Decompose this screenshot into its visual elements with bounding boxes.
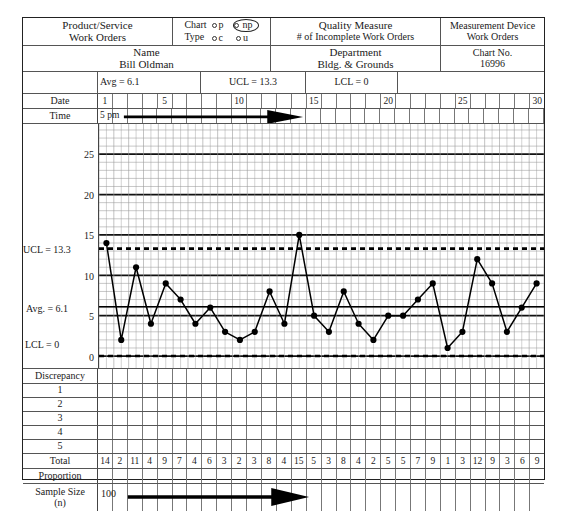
discrepancy-cell[interactable] — [426, 440, 441, 453]
discrepancy-cell[interactable] — [381, 426, 396, 439]
discrepancy-cell[interactable] — [515, 384, 530, 397]
proportion-cells[interactable] — [98, 469, 544, 483]
discrepancy-cell[interactable] — [351, 440, 366, 453]
date-tick-cell[interactable]: 10 — [232, 94, 247, 108]
date-tick-cell[interactable] — [500, 94, 515, 108]
proportion-cell[interactable] — [396, 469, 411, 483]
discrepancy-cell[interactable] — [530, 384, 544, 397]
discrepancy-cell[interactable] — [158, 412, 173, 425]
discrepancy-cell[interactable] — [500, 384, 515, 397]
discrepancy-cell[interactable] — [515, 426, 530, 439]
discrepancy-cell[interactable] — [262, 384, 277, 397]
discrepancy-cell[interactable] — [113, 398, 128, 411]
discrepancy-cell[interactable] — [247, 440, 262, 453]
discrepancy-cell[interactable] — [202, 384, 217, 397]
discrepancy-cell[interactable] — [173, 398, 188, 411]
discrepancy-cell[interactable] — [98, 440, 113, 453]
discrepancy-cell[interactable] — [337, 384, 352, 397]
discrepancy-cell[interactable] — [426, 384, 441, 397]
proportion-cell[interactable] — [262, 469, 277, 483]
proportion-cell[interactable] — [456, 469, 471, 483]
date-tick-cell[interactable]: 15 — [307, 94, 322, 108]
chart-type-cell[interactable]: Chart Type p np c u — [173, 18, 271, 45]
discrepancy-cell[interactable] — [486, 398, 501, 411]
discrepancy-cell[interactable] — [471, 398, 486, 411]
discrepancy-cell[interactable] — [128, 384, 143, 397]
discrepancy-cell[interactable] — [411, 412, 426, 425]
department-cell[interactable]: Department Bldg. & Grounds — [271, 46, 441, 71]
discrepancy-cell[interactable] — [98, 398, 113, 411]
discrepancy-cell[interactable] — [187, 412, 202, 425]
discrepancy-cell[interactable] — [471, 384, 486, 397]
proportion-cell[interactable] — [515, 469, 530, 483]
discrepancy-cell[interactable] — [396, 384, 411, 397]
date-tick-cell[interactable] — [113, 94, 128, 108]
discrepancy-cell[interactable] — [292, 440, 307, 453]
discrepancy-cell[interactable] — [486, 412, 501, 425]
discrepancy-cell[interactable] — [217, 412, 232, 425]
discrepancy-cell[interactable] — [143, 412, 158, 425]
ucl-stat[interactable]: UCL = 13.3 — [201, 72, 306, 93]
discrepancy-cell[interactable] — [187, 426, 202, 439]
proportion-cell[interactable] — [426, 469, 441, 483]
discrepancy-cell[interactable] — [202, 440, 217, 453]
discrepancy-cell[interactable] — [158, 426, 173, 439]
discrepancy-cell[interactable] — [351, 398, 366, 411]
discrepancy-cell[interactable] — [262, 426, 277, 439]
date-tick-cell[interactable] — [292, 94, 307, 108]
proportion-cell[interactable] — [411, 469, 426, 483]
discrepancy-cell[interactable] — [471, 412, 486, 425]
date-tick-cell[interactable] — [277, 94, 292, 108]
date-tick-cell[interactable] — [128, 94, 143, 108]
discrepancy-cell[interactable] — [486, 384, 501, 397]
discrepancy-cell[interactable] — [322, 398, 337, 411]
discrepancy-cell[interactable] — [515, 412, 530, 425]
discrepancy-cell[interactable] — [158, 440, 173, 453]
discrepancy-cell[interactable] — [456, 440, 471, 453]
discrepancy-cell[interactable] — [173, 426, 188, 439]
discrepancy-cell[interactable] — [217, 398, 232, 411]
discrepancy-cell[interactable] — [277, 384, 292, 397]
discrepancy-cell[interactable] — [411, 440, 426, 453]
discrepancy-cell[interactable] — [232, 384, 247, 397]
discrepancy-cell[interactable] — [277, 412, 292, 425]
product-service-cell[interactable]: Product/Service Work Orders — [23, 18, 173, 45]
proportion-cell[interactable] — [202, 469, 217, 483]
proportion-cell[interactable] — [187, 469, 202, 483]
proportion-cell[interactable] — [471, 469, 486, 483]
discrepancy-cell[interactable] — [530, 426, 544, 439]
discrepancy-cell[interactable] — [381, 412, 396, 425]
date-tick-cell[interactable] — [426, 94, 441, 108]
proportion-cell[interactable] — [158, 469, 173, 483]
discrepancy-cell[interactable] — [381, 440, 396, 453]
proportion-cell[interactable] — [247, 469, 262, 483]
discrepancy-cell[interactable] — [337, 412, 352, 425]
proportion-cell[interactable] — [217, 469, 232, 483]
discrepancy-cell[interactable] — [426, 398, 441, 411]
discrepancy-cell[interactable] — [247, 426, 262, 439]
discrepancy-cell[interactable] — [337, 426, 352, 439]
time-cells[interactable]: 5 pm — [98, 109, 544, 123]
proportion-cell[interactable] — [98, 469, 113, 483]
discrepancy-cell[interactable] — [187, 398, 202, 411]
discrepancy-cell[interactable] — [262, 412, 277, 425]
discrepancy-cell[interactable] — [441, 412, 456, 425]
date-tick-cell[interactable] — [143, 94, 158, 108]
date-tick-cell[interactable] — [337, 94, 352, 108]
discrepancy-cell[interactable] — [337, 440, 352, 453]
proportion-cell[interactable] — [381, 469, 396, 483]
discrepancy-cell[interactable] — [530, 412, 544, 425]
date-tick-cell[interactable]: 30 — [530, 94, 544, 108]
date-tick-cell[interactable] — [515, 94, 530, 108]
proportion-cell[interactable] — [441, 469, 456, 483]
discrepancy-cell[interactable] — [366, 426, 381, 439]
sample-size-cells[interactable]: 100 — [98, 484, 544, 511]
chart-no-cell[interactable]: Chart No. 16996 — [441, 46, 544, 71]
chart-type-option-p[interactable]: p — [212, 20, 224, 31]
discrepancy-cell[interactable] — [247, 398, 262, 411]
discrepancy-cell[interactable] — [277, 398, 292, 411]
discrepancy-cell[interactable] — [441, 384, 456, 397]
discrepancy-cell[interactable] — [322, 426, 337, 439]
discrepancy-cell[interactable] — [515, 398, 530, 411]
discrepancy-cell[interactable] — [411, 384, 426, 397]
